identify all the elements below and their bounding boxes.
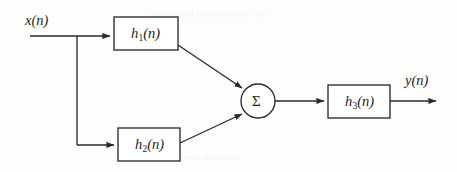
input-signal-label: x(n) (25, 13, 48, 28)
wire-h2-to-adder (180, 114, 242, 143)
block-h3-arg: (n) (357, 93, 374, 109)
block-h2-label: h2(n) (135, 137, 164, 153)
block-h1-arg: (n) (143, 25, 160, 41)
block-h1-label: h1(n) (131, 26, 160, 42)
summing-junction-symbol: Σ (252, 94, 261, 109)
output-signal-label: y(n) (405, 73, 428, 88)
output-signal-arg: (n) (411, 72, 428, 88)
block-h3-label: h3(n) (345, 94, 374, 110)
input-signal-arg: (n) (31, 12, 48, 28)
wire-h1-to-adder (178, 45, 242, 88)
block-diagram-figure: the parallel connection of two systems i… (0, 0, 457, 172)
block-h2-arg: (n) (147, 136, 164, 152)
diagram-canvas (0, 0, 457, 172)
